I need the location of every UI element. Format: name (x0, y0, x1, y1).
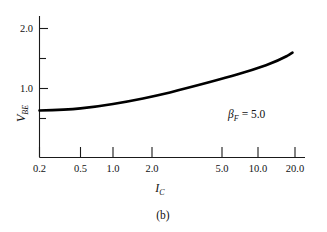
x-ticklabel-10_0: 10.0 (249, 163, 267, 174)
x-axis-title-sub: C (159, 188, 165, 197)
y-axis-title: VBE (14, 105, 30, 122)
svg-text:VBE: VBE (14, 105, 30, 122)
x-ticklabel-2_0: 2.0 (145, 163, 158, 174)
curve-vbe-vs-ic (40, 53, 293, 111)
chart-svg: 2.0 1.0 0.2 0.5 1.0 2.0 5.0 10.0 20.0 VB… (0, 0, 327, 232)
x-ticklabel-5_0: 5.0 (215, 163, 228, 174)
y-ticklabel-2: 2.0 (20, 23, 33, 34)
annotation-beta-subscript: F (233, 114, 239, 123)
x-ticklabel-0_5: 0.5 (74, 163, 87, 174)
figure-caption: (b) (156, 209, 170, 222)
x-ticklabel-0_2: 0.2 (33, 163, 46, 174)
annotation-beta-value: = 5.0 (242, 108, 266, 120)
annotation-beta-f: βF= 5.0 (227, 108, 266, 123)
figure-container: 2.0 1.0 0.2 0.5 1.0 2.0 5.0 10.0 20.0 VB… (0, 0, 327, 232)
x-ticklabel-20_0: 20.0 (286, 163, 304, 174)
y-axis-title-sub: BE (21, 105, 30, 115)
x-ticklabel-1_0: 1.0 (106, 163, 119, 174)
y-ticklabel-1: 1.0 (20, 83, 33, 94)
x-axis-title: IC (154, 181, 165, 197)
